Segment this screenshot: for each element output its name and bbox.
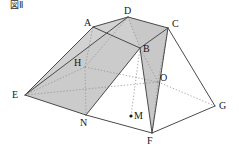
vertex-label-c: C (172, 19, 179, 29)
edge-C-G (168, 28, 215, 106)
geometry-svg (0, 0, 239, 159)
figure-canvas: 図Ⅱ ADCBHOEGNFM (0, 0, 239, 159)
vertex-label-g: G (219, 101, 226, 111)
vertex-label-e: E (12, 90, 18, 100)
point-marker-m (129, 114, 132, 117)
vertex-label-m: M (134, 111, 143, 121)
vertex-label-f: F (147, 136, 153, 146)
vertex-label-b: B (143, 44, 150, 54)
point-markers-layer (129, 114, 132, 117)
vertex-label-o: O (160, 73, 167, 83)
vertex-label-d: D (124, 6, 131, 16)
faces-layer (25, 17, 168, 133)
edge-F-G (152, 106, 215, 133)
edge-O-G (158, 82, 215, 106)
vertex-label-h: H (74, 58, 81, 68)
vertex-label-n: N (80, 118, 87, 128)
vertex-label-a: A (84, 18, 91, 28)
